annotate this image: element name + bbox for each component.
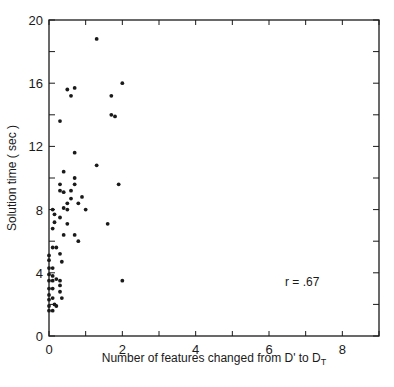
data-point	[58, 284, 62, 288]
data-point	[51, 296, 55, 300]
data-point	[53, 220, 57, 224]
data-point	[62, 206, 66, 210]
data-point	[76, 239, 80, 243]
data-point	[73, 86, 77, 90]
data-point	[47, 293, 51, 297]
data-point	[54, 277, 58, 281]
data-point	[58, 182, 62, 186]
data-point	[69, 197, 73, 201]
y-tick-label: 8	[36, 203, 43, 218]
data-point	[47, 266, 51, 270]
data-point	[84, 208, 88, 212]
data-point	[95, 163, 99, 167]
x-axis-ticks: 02468	[45, 20, 379, 357]
y-tick-label: 4	[36, 266, 43, 281]
data-point	[69, 94, 73, 98]
x-tick-label: 8	[339, 342, 346, 357]
data-point	[120, 81, 124, 85]
data-point	[47, 304, 51, 308]
data-point	[62, 233, 66, 237]
data-point	[47, 309, 51, 313]
y-tick-label: 16	[29, 76, 43, 91]
scatter-plot: 02468 048121620 r = .67 Number of featur…	[0, 0, 394, 387]
y-tick-label: 12	[29, 139, 43, 154]
plot-frame	[49, 20, 379, 336]
data-point	[120, 279, 124, 283]
data-point	[95, 37, 99, 41]
data-point	[60, 296, 64, 300]
data-point	[69, 189, 73, 193]
data-point	[65, 208, 69, 212]
data-point	[53, 212, 57, 216]
x-tick-label: 0	[45, 342, 52, 357]
data-point	[65, 201, 69, 205]
data-point	[47, 254, 51, 258]
data-point	[80, 195, 84, 199]
data-point	[65, 222, 69, 226]
y-axis-label: Solution time ( sec )	[5, 125, 19, 231]
data-point	[76, 201, 80, 205]
data-point	[73, 151, 77, 155]
data-point	[47, 287, 51, 291]
data-point	[65, 88, 69, 92]
data-point	[62, 170, 66, 174]
data-point	[60, 260, 64, 264]
data-point	[106, 222, 110, 226]
data-point	[117, 182, 121, 186]
data-point	[47, 258, 51, 262]
correlation-annotation: r = .67	[285, 275, 320, 289]
data-point	[58, 189, 62, 193]
data-point	[109, 113, 113, 117]
data-point	[47, 272, 51, 276]
data-point	[58, 290, 62, 294]
data-point	[51, 246, 55, 250]
x-axis-label-main: Number of features changed from D' to D	[102, 351, 321, 365]
data-point	[58, 279, 62, 283]
data-point	[73, 176, 77, 180]
data-point	[62, 190, 66, 194]
y-axis-ticks: 048121620	[29, 13, 379, 344]
data-point	[58, 216, 62, 220]
data-point	[54, 304, 58, 308]
y-tick-label: 0	[36, 329, 43, 344]
data-point	[51, 274, 55, 278]
x-axis-label-subscript: T	[321, 357, 327, 367]
data-point	[58, 119, 62, 123]
data-point	[51, 227, 55, 231]
y-tick-label: 20	[29, 13, 43, 28]
x-axis-label: Number of features changed from D' to DT	[102, 351, 327, 367]
data-point	[73, 233, 77, 237]
data-points	[47, 37, 124, 313]
data-point	[73, 182, 77, 186]
data-point	[51, 309, 55, 313]
data-point	[47, 298, 51, 302]
data-point	[51, 208, 55, 212]
data-point	[51, 279, 55, 283]
data-point	[54, 246, 58, 250]
data-point	[113, 114, 117, 118]
data-point	[58, 252, 62, 256]
data-point	[51, 266, 55, 270]
data-point	[51, 287, 55, 291]
data-point	[47, 279, 51, 283]
data-point	[109, 94, 113, 98]
